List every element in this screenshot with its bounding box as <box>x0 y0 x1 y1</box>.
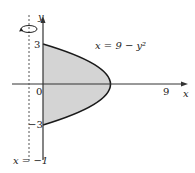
rotation-arrow-icon <box>19 26 37 33</box>
diagram-canvas: y x 3 −3 0 9 x = 9 − y² x = −1 <box>0 0 195 173</box>
origin-label: 0 <box>36 86 42 97</box>
axis-of-rotation-label: x = −1 <box>13 155 48 166</box>
y-axis-label: y <box>37 11 44 22</box>
y-bottom-tick-label: −3 <box>28 119 43 130</box>
curve-equation-label: x = 9 − y² <box>95 40 146 51</box>
x-tick-label-9: 9 <box>163 86 169 97</box>
y-top-tick-label: 3 <box>34 39 40 50</box>
x-axis-label: x <box>183 88 189 99</box>
x-axis-arrow-icon <box>181 82 188 87</box>
